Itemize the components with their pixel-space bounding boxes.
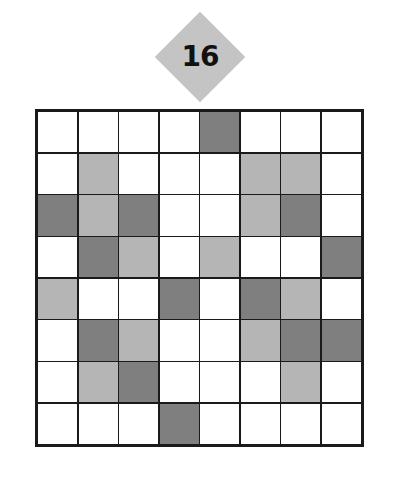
grid-cell[interactable] (241, 154, 280, 194)
grid-cell[interactable] (281, 195, 320, 235)
grid-cell[interactable] (119, 237, 158, 277)
grid-cell[interactable] (200, 112, 239, 152)
grid-cell[interactable] (241, 237, 280, 277)
grid-cell[interactable] (79, 279, 118, 319)
grid-cell[interactable] (322, 195, 361, 235)
grid-cell[interactable] (160, 320, 199, 360)
grid-cell[interactable] (241, 404, 280, 444)
grid-cell[interactable] (322, 154, 361, 194)
grid-cell[interactable] (322, 362, 361, 402)
grid-cell[interactable] (241, 279, 280, 319)
grid-cell[interactable] (200, 362, 239, 402)
grid-cell[interactable] (119, 112, 158, 152)
grid-cell[interactable] (119, 404, 158, 444)
grid-cell[interactable] (119, 362, 158, 402)
grid-cell[interactable] (119, 154, 158, 194)
grid-cell[interactable] (281, 320, 320, 360)
grid-cell[interactable] (200, 404, 239, 444)
grid-cell[interactable] (160, 404, 199, 444)
grid-cell[interactable] (241, 195, 280, 235)
grid-cell[interactable] (38, 237, 77, 277)
grid-cell[interactable] (241, 320, 280, 360)
grid-cell[interactable] (241, 362, 280, 402)
grid-cell[interactable] (322, 279, 361, 319)
grid-cell[interactable] (322, 320, 361, 360)
grid-cell[interactable] (200, 320, 239, 360)
grid-cell[interactable] (79, 404, 118, 444)
puzzle-grid (35, 109, 364, 447)
grid-cell[interactable] (119, 279, 158, 319)
grid-cell[interactable] (79, 195, 118, 235)
grid-cell[interactable] (281, 112, 320, 152)
grid-cell[interactable] (119, 320, 158, 360)
grid-cell[interactable] (79, 320, 118, 360)
grid-cell[interactable] (79, 154, 118, 194)
grid-cell[interactable] (160, 195, 199, 235)
grid-cell[interactable] (200, 237, 239, 277)
grid-cell[interactable] (160, 112, 199, 152)
grid-cell[interactable] (200, 154, 239, 194)
grid-cell[interactable] (38, 362, 77, 402)
grid-cell[interactable] (322, 237, 361, 277)
grid-cell[interactable] (79, 112, 118, 152)
grid-cell[interactable] (281, 237, 320, 277)
grid-cell[interactable] (281, 404, 320, 444)
grid-cell[interactable] (200, 195, 239, 235)
grid-cell[interactable] (160, 279, 199, 319)
grid-cell[interactable] (119, 195, 158, 235)
grid-cell[interactable] (160, 362, 199, 402)
grid-cell[interactable] (38, 279, 77, 319)
grid-cell[interactable] (322, 404, 361, 444)
grid-cell[interactable] (200, 279, 239, 319)
puzzle-number: 16 (155, 12, 245, 102)
grid-cell[interactable] (281, 154, 320, 194)
puzzle-number-badge: 16 (155, 12, 245, 102)
grid-cell[interactable] (281, 362, 320, 402)
grid-cell[interactable] (322, 112, 361, 152)
grid-cell[interactable] (160, 237, 199, 277)
grid-cell[interactable] (281, 279, 320, 319)
grid-cell[interactable] (38, 320, 77, 360)
grid-cell[interactable] (38, 112, 77, 152)
grid-cell[interactable] (79, 362, 118, 402)
grid-cell[interactable] (38, 154, 77, 194)
grid-cell[interactable] (160, 154, 199, 194)
grid-cell[interactable] (79, 237, 118, 277)
grid-cell[interactable] (38, 195, 77, 235)
grid-cell[interactable] (241, 112, 280, 152)
grid-cell[interactable] (38, 404, 77, 444)
